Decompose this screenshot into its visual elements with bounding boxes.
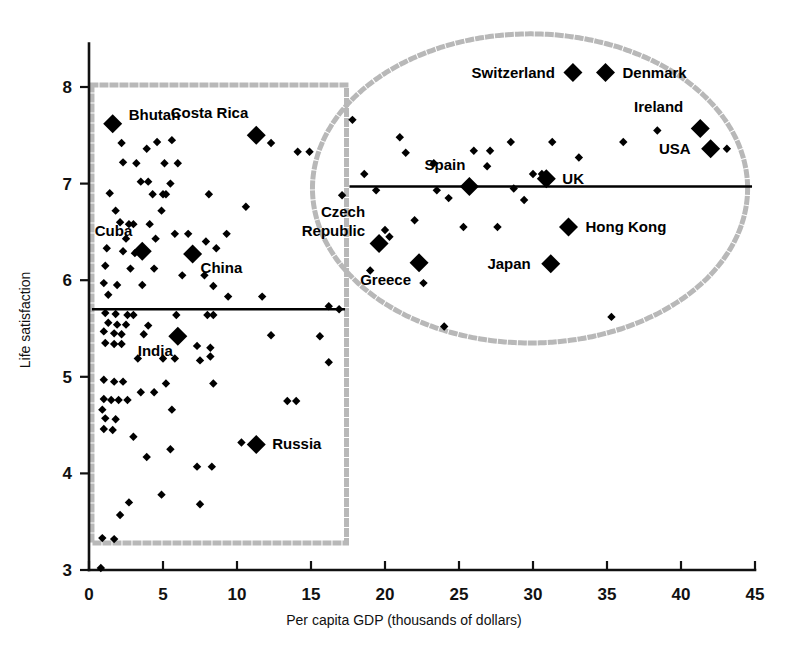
data-point xyxy=(137,388,145,396)
data-point xyxy=(122,320,130,328)
data-point xyxy=(110,329,118,337)
data-point xyxy=(129,432,137,440)
data-point xyxy=(166,445,174,453)
data-point xyxy=(305,148,313,156)
data-point xyxy=(193,462,201,470)
data-point xyxy=(653,126,661,134)
data-point xyxy=(100,395,108,403)
data-point xyxy=(150,264,158,272)
data-point-greece xyxy=(410,253,429,272)
data-point xyxy=(293,148,301,156)
data-point xyxy=(108,426,116,434)
x-tick-label: 40 xyxy=(672,585,691,604)
data-point xyxy=(483,162,491,170)
data-point xyxy=(119,247,127,255)
data-point-cuba xyxy=(133,242,152,261)
data-point-ireland xyxy=(691,119,710,138)
data-point xyxy=(104,290,112,298)
data-point xyxy=(143,145,151,153)
point-label-india: India xyxy=(138,342,174,359)
data-point xyxy=(619,138,627,146)
data-point xyxy=(360,170,368,178)
data-point xyxy=(157,490,165,498)
data-point xyxy=(126,264,134,272)
data-point xyxy=(100,375,108,383)
y-tick-label: 3 xyxy=(63,561,72,580)
data-point xyxy=(402,148,410,156)
data-point xyxy=(206,344,214,352)
x-tick-label: 35 xyxy=(598,585,617,604)
data-point xyxy=(348,116,356,124)
data-point xyxy=(723,145,731,153)
data-point xyxy=(171,230,179,238)
data-point xyxy=(148,190,156,198)
x-tick-label: 20 xyxy=(376,585,395,604)
x-tick-label: 45 xyxy=(746,585,765,604)
data-point xyxy=(111,206,119,214)
x-tick-label: 0 xyxy=(84,585,93,604)
data-point xyxy=(143,453,151,461)
data-point xyxy=(607,313,615,321)
data-point-usa xyxy=(701,139,720,158)
data-point xyxy=(132,159,140,167)
data-point xyxy=(548,138,556,146)
x-tick-label: 10 xyxy=(228,585,247,604)
data-point xyxy=(459,223,467,231)
data-point xyxy=(267,139,275,147)
y-tick-label: 8 xyxy=(63,78,72,97)
point-label-spain: Spain xyxy=(425,156,466,173)
axis-layer xyxy=(80,44,755,570)
data-point xyxy=(111,415,119,423)
data-point xyxy=(117,340,125,348)
data-point xyxy=(209,311,217,319)
data-point xyxy=(111,310,119,318)
data-point xyxy=(168,136,176,144)
data-point xyxy=(224,292,232,300)
data-point xyxy=(178,271,186,279)
point-label-usa: USA xyxy=(659,140,691,157)
data-point xyxy=(316,332,324,340)
data-point xyxy=(123,396,131,404)
tick-label-layer: 051015202530354045345678 xyxy=(63,78,765,604)
data-point xyxy=(174,159,182,167)
data-point xyxy=(162,379,170,387)
data-point xyxy=(104,319,112,327)
data-point-denmark xyxy=(596,63,615,82)
data-point xyxy=(113,281,121,289)
point-label-layer: BhutanCosta RicaCubaChinaIndiaRussiaCzec… xyxy=(95,64,691,453)
point-label-switzerland: Switzerland xyxy=(472,64,555,81)
x-axis-title: Per capita GDP (thousands of dollars) xyxy=(286,612,522,628)
data-point-hong-kong xyxy=(559,218,578,237)
data-point xyxy=(381,226,389,234)
data-point xyxy=(212,244,220,252)
data-point xyxy=(100,327,108,335)
data-point-spain xyxy=(460,177,479,196)
data-point xyxy=(138,281,146,289)
data-point xyxy=(209,379,217,387)
data-point-japan xyxy=(541,254,560,273)
data-point xyxy=(396,133,404,141)
data-point xyxy=(129,311,137,319)
data-point xyxy=(325,358,333,366)
data-point xyxy=(529,170,537,178)
data-point xyxy=(385,233,393,241)
data-point xyxy=(119,158,127,166)
data-point xyxy=(410,216,418,224)
x-tick-label: 15 xyxy=(302,585,321,604)
data-point xyxy=(153,138,161,146)
data-point xyxy=(107,396,115,404)
data-point xyxy=(101,339,109,347)
y-tick-label: 6 xyxy=(63,271,72,290)
data-point xyxy=(113,320,121,328)
data-point xyxy=(103,244,111,252)
data-point xyxy=(208,462,216,470)
data-point xyxy=(101,262,109,270)
chart-canvas: BhutanCosta RicaCubaChinaIndiaRussiaCzec… xyxy=(0,0,792,659)
scatter-chart: BhutanCosta RicaCubaChinaIndiaRussiaCzec… xyxy=(0,0,792,659)
data-point xyxy=(209,282,217,290)
data-point xyxy=(206,352,214,360)
data-point xyxy=(202,237,210,245)
data-point xyxy=(144,321,152,329)
data-point xyxy=(160,159,168,167)
x-tick-label: 25 xyxy=(450,585,469,604)
